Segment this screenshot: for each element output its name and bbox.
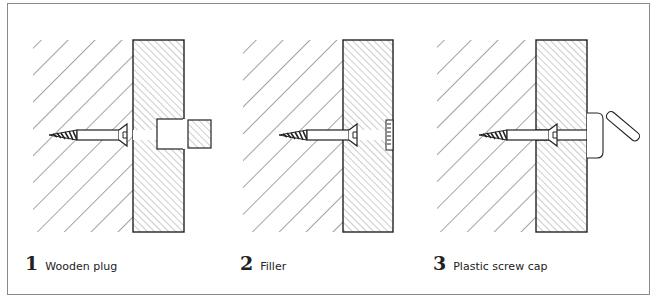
panel-3-drawing — [437, 40, 641, 232]
caption-3: 3 Plastic screw cap — [433, 252, 547, 274]
caption-2: 2 Filler — [240, 252, 286, 274]
caption-label: Wooden plug — [45, 260, 117, 273]
caption-number: 3 — [433, 252, 446, 274]
caption-1: 1 Wooden plug — [25, 252, 117, 274]
caption-number: 2 — [240, 252, 253, 274]
panel-1-drawing — [33, 40, 211, 232]
plastic-screw-cap-icon — [587, 113, 603, 158]
caption-label: Plastic screw cap — [453, 260, 547, 273]
caption-number: 1 — [25, 252, 38, 274]
wooden-plug-icon — [188, 120, 211, 148]
panel-2-drawing — [243, 40, 393, 232]
caption-label: Filler — [260, 260, 286, 273]
